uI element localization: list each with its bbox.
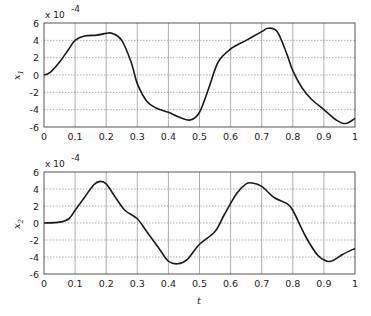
y-tick-label: 2 [33, 52, 39, 63]
y-axis-label: x1 [11, 70, 25, 80]
x-tick-label: 1 [352, 131, 358, 142]
plot-x2: 00.10.20.30.40.50.60.70.80.916420-2-4-6x… [11, 153, 358, 289]
x-tick-label: 0.6 [223, 131, 238, 142]
x-tick-label: 0.8 [285, 131, 300, 142]
x-tick-label: 0 [41, 131, 47, 142]
scale-exponent: -4 [71, 153, 80, 163]
x-tick-label: 0.5 [192, 131, 207, 142]
x-tick-label: 0.2 [99, 131, 114, 142]
x-tick-label: 0.1 [68, 131, 83, 142]
scale-exponent: -4 [71, 4, 80, 14]
y-tick-label: 0 [33, 70, 39, 81]
y-tick-label: -6 [30, 122, 39, 133]
y-tick-label: -4 [30, 252, 39, 263]
figure: 00.10.20.30.40.50.60.70.80.916420-2-4-6x… [0, 0, 371, 316]
x-tick-label: 0.4 [161, 278, 176, 289]
plot-x1: 00.10.20.30.40.50.60.70.80.916420-2-4-6x… [11, 4, 358, 142]
y-tick-label: 0 [33, 218, 39, 229]
y-tick-label: 4 [33, 184, 39, 195]
x-tick-label: 0.7 [254, 131, 269, 142]
y-tick-label: 6 [33, 167, 39, 178]
y-tick-label: 4 [33, 35, 39, 46]
scale-label: x 10 [45, 10, 65, 20]
x-tick-label: 0.3 [130, 278, 145, 289]
x-tick-label: 1 [352, 278, 358, 289]
y-axis-label: x2 [11, 218, 25, 229]
x-tick-label: 0.4 [161, 131, 176, 142]
x-tick-label: 0.1 [68, 278, 83, 289]
x-axis-label: t [197, 295, 202, 306]
y-tick-label: 6 [33, 18, 39, 29]
x-tick-label: 0.6 [223, 278, 238, 289]
y-tick-label: 2 [33, 201, 39, 212]
x-tick-label: 0.5 [192, 278, 207, 289]
y-tick-label: -2 [30, 235, 39, 246]
x-tick-label: 0.9 [316, 278, 331, 289]
x-tick-label: 0.3 [130, 131, 145, 142]
x-tick-label: 0 [41, 278, 47, 289]
x-tick-label: 0.7 [254, 278, 269, 289]
y-tick-label: -6 [30, 269, 39, 280]
x-tick-label: 0.8 [285, 278, 300, 289]
y-tick-label: -4 [30, 104, 39, 115]
x-tick-label: 0.9 [316, 131, 331, 142]
y-tick-label: -2 [30, 87, 39, 98]
x-tick-label: 0.2 [99, 278, 114, 289]
scale-label: x 10 [45, 159, 65, 169]
